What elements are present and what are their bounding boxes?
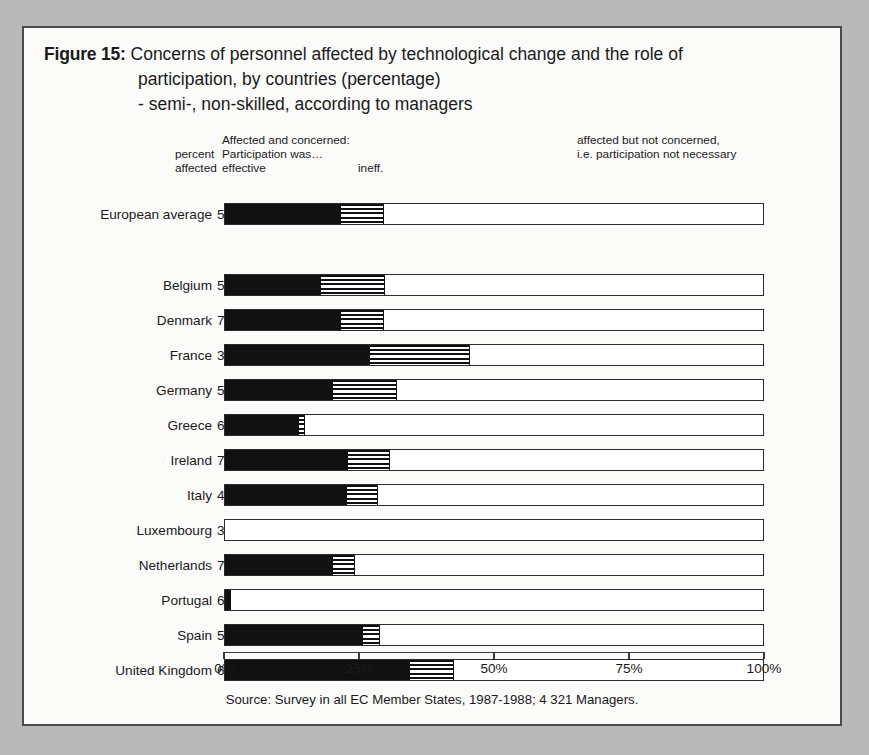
stacked-bar bbox=[224, 554, 764, 576]
stacked-bar bbox=[224, 344, 764, 366]
row-country-label: Greece bbox=[34, 418, 212, 433]
bar-segment-ineffective bbox=[348, 450, 390, 470]
stacked-bar bbox=[224, 274, 764, 296]
bar-segment-ineffective bbox=[299, 415, 305, 435]
figure-frame: Figure 15: Concerns of personnel affecte… bbox=[22, 26, 842, 726]
table-row: France30 bbox=[24, 342, 840, 368]
stacked-bar bbox=[224, 624, 764, 646]
table-row: Denmark70 bbox=[24, 307, 840, 333]
table-row: Netherlands73 bbox=[24, 552, 840, 578]
row-country-label: Belgium bbox=[34, 278, 212, 293]
stacked-bar bbox=[224, 414, 764, 436]
source-note: Source: Survey in all EC Member States, … bbox=[24, 692, 840, 707]
axis-tick bbox=[763, 652, 764, 659]
table-row: European average54 bbox=[24, 201, 840, 227]
row-country-label: Spain bbox=[34, 628, 212, 643]
row-country-label: Netherlands bbox=[34, 558, 212, 573]
row-country-label: European average bbox=[34, 207, 212, 222]
axis-tick-label: 50% bbox=[480, 661, 507, 676]
table-row: Italy45 bbox=[24, 482, 840, 508]
table-row: Luxembourg36 bbox=[24, 517, 840, 543]
stacked-bar bbox=[224, 449, 764, 471]
bar-segment-effective bbox=[225, 485, 347, 505]
table-row: Greece66 bbox=[24, 412, 840, 438]
bar-segment-ineffective bbox=[333, 555, 355, 575]
row-country-label: Germany bbox=[34, 383, 212, 398]
axis-tick-label: 100% bbox=[747, 661, 782, 676]
row-country-label: Portugal bbox=[34, 593, 212, 608]
row-country-label: France bbox=[34, 348, 212, 363]
stacked-bar bbox=[224, 309, 764, 331]
row-country-label: Ireland bbox=[34, 453, 212, 468]
axis-tick-label: 75% bbox=[615, 661, 642, 676]
bar-segment-ineffective bbox=[321, 275, 385, 295]
axis-tick-label: 0% bbox=[214, 661, 234, 676]
bar-segment-effective bbox=[225, 345, 370, 365]
bar-segment-effective bbox=[225, 415, 299, 435]
bar-segment-effective bbox=[225, 555, 333, 575]
table-row: Ireland70 bbox=[24, 447, 840, 473]
bar-segment-ineffective bbox=[341, 310, 385, 330]
chart-rows: European average54Belgium53Denmark70Fran… bbox=[24, 28, 840, 724]
bar-segment-effective bbox=[225, 204, 341, 224]
bar-segment-effective bbox=[225, 310, 341, 330]
axis-tick bbox=[223, 652, 224, 659]
bar-segment-ineffective bbox=[341, 204, 385, 224]
stacked-bar bbox=[224, 379, 764, 401]
bar-segment-ineffective bbox=[370, 345, 470, 365]
bar-segment-effective bbox=[225, 625, 363, 645]
bar-segment-effective bbox=[225, 275, 321, 295]
row-country-label: Luxembourg bbox=[34, 523, 212, 538]
row-country-label: United Kingdom bbox=[34, 663, 212, 678]
row-country-label: Italy bbox=[34, 488, 212, 503]
table-row: Portugal66 bbox=[24, 587, 840, 613]
table-row: Spain53 bbox=[24, 622, 840, 648]
stacked-bar bbox=[224, 203, 764, 225]
axis-tick bbox=[628, 652, 629, 659]
axis-tick bbox=[493, 652, 494, 659]
axis-tick bbox=[358, 652, 359, 659]
bar-segment-ineffective bbox=[363, 625, 381, 645]
table-row: Germany55 bbox=[24, 377, 840, 403]
stacked-bar bbox=[224, 519, 764, 541]
table-row: Belgium53 bbox=[24, 272, 840, 298]
stacked-bar bbox=[224, 589, 764, 611]
bar-segment-effective bbox=[225, 450, 348, 470]
bar-segment-effective bbox=[225, 590, 231, 610]
axis-tick-label: 25% bbox=[345, 661, 372, 676]
x-axis: 0%25%50%75%100% bbox=[224, 652, 764, 686]
bar-segment-ineffective bbox=[347, 485, 379, 505]
row-country-label: Denmark bbox=[34, 313, 212, 328]
bar-segment-ineffective bbox=[333, 380, 397, 400]
stacked-bar bbox=[224, 484, 764, 506]
bar-segment-effective bbox=[225, 380, 333, 400]
